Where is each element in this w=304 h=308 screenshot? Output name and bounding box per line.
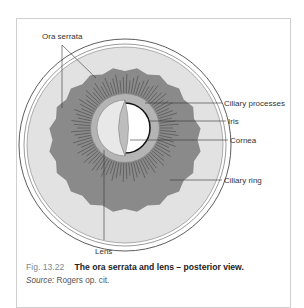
figure-caption: Fig. 13.22 The ora serrata and lens – po… [26, 262, 244, 272]
label-ciliary-ring: Ciliary ring [224, 176, 262, 185]
label-lens: Lens [95, 247, 112, 256]
label-ciliary-processes: Ciliary processes [224, 99, 285, 108]
source-text: Rogers op. cit. [54, 276, 109, 285]
label-ora-serrata: Ora serrata [42, 32, 83, 41]
source-label: Source: [26, 276, 54, 285]
figure-number: Fig. 13.22 [26, 262, 64, 272]
label-cornea: Cornea [230, 136, 257, 145]
label-iris: Iris [228, 117, 239, 126]
figure-source: Source: Rogers op. cit. [26, 276, 109, 285]
figure-title: The ora serrata and lens – posterior vie… [75, 262, 244, 272]
